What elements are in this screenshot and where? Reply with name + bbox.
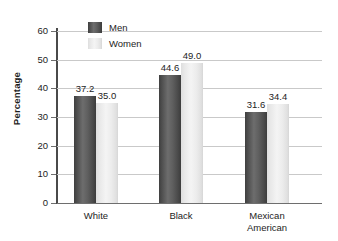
legend-swatch-women-icon	[88, 38, 102, 49]
bar-men-mexican-american	[245, 112, 267, 203]
value-label-women-mexican-american: 34.4	[262, 91, 294, 102]
bar-men-black	[159, 75, 181, 203]
gridline-0	[57, 203, 322, 204]
legend-item-women: Women	[88, 35, 142, 51]
value-label-men-black: 44.6	[154, 62, 186, 73]
bar-women-mexican-american	[267, 104, 289, 203]
y-tick-label-50: 50	[22, 54, 48, 65]
bar-women-black	[181, 63, 203, 203]
legend-label-women: Women	[109, 38, 142, 49]
bar-chart: Percentage 0102030405060 37.235.044.649.…	[0, 0, 338, 241]
legend: Men Women	[88, 19, 142, 51]
y-axis-title: Percentage	[11, 49, 22, 149]
legend-swatch-men-icon	[88, 22, 102, 33]
legend-label-men: Men	[109, 22, 127, 33]
y-tick-label-30: 30	[22, 111, 48, 122]
legend-item-men: Men	[88, 19, 142, 35]
category-label-line: Mexican	[207, 210, 327, 222]
bar-women-white	[96, 103, 118, 203]
value-label-women-white: 35.0	[91, 90, 123, 101]
y-tick-label-60: 60	[22, 25, 48, 36]
y-tick-label-10: 10	[22, 168, 48, 179]
bar-men-white	[74, 96, 96, 203]
y-tick-label-20: 20	[22, 140, 48, 151]
category-label-mexican-american: MexicanAmerican	[207, 210, 327, 234]
y-tick-label-0: 0	[22, 197, 48, 208]
y-tick-label-40: 40	[22, 82, 48, 93]
category-label-line: American	[207, 222, 327, 234]
value-label-women-black: 49.0	[176, 50, 208, 61]
